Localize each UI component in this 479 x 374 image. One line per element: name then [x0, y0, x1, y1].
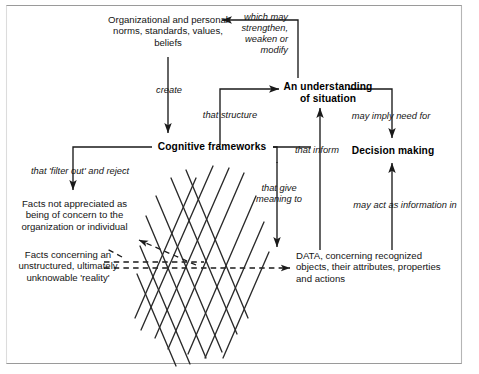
- node-cognitive-frameworks: Cognitive frameworks: [150, 141, 274, 153]
- node-data-line3: and actions: [296, 273, 476, 284]
- node-data-line2: objects, their attributes, properties: [296, 261, 476, 272]
- edge-label-that-inform: that inform: [285, 145, 349, 156]
- edge-label-that-structure: that structure: [193, 110, 267, 121]
- edge-label-that-give-line2: meaning to: [248, 194, 310, 205]
- node-decision-making: Decision making: [349, 145, 437, 157]
- lattice-line-b3: [188, 196, 256, 354]
- lattice-line-b7: [135, 178, 196, 318]
- node-facts-concerning-reality: Facts concerning an unstructured, ultima…: [8, 249, 128, 283]
- node-an-understanding-of-situation: An understanding of situation: [282, 81, 374, 105]
- edge-label-that-give-line1: that give: [248, 183, 310, 194]
- edge-label-which-may-modify: which may strengthen, weaken or modify: [218, 12, 288, 57]
- node-facts-reality-line2: unstructured, ultimately: [8, 260, 128, 271]
- edge-label-which-may-line4: modify: [218, 45, 288, 56]
- edge-label-that-filter-out: that 'filter out' and reject: [31, 166, 161, 177]
- node-data-concerning-recognized-objects: DATA, concerning recognized objects, the…: [296, 250, 476, 284]
- lattice-line-b5: [223, 252, 269, 358]
- edge-label-which-may-line2: strengthen,: [218, 23, 288, 34]
- edge-label-which-may-line3: weaken or: [218, 34, 288, 45]
- edge-label-create: create: [139, 85, 199, 96]
- edge-label-which-may-line1: which may: [218, 12, 288, 23]
- node-understanding-line1: An understanding: [282, 81, 374, 93]
- node-facts-not-line2: being of concern to the: [8, 209, 141, 220]
- edge-label-may-act-as-information-in: may act as information in: [345, 200, 465, 211]
- node-facts-not-line3: organization or individual: [8, 221, 141, 232]
- node-facts-not-appreciated: Facts not appreciated as being of concer…: [8, 198, 141, 232]
- node-understanding-line2: of situation: [282, 93, 374, 105]
- node-data-line1: DATA, concerning recognized: [296, 250, 476, 261]
- node-facts-reality-line3: unknowable 'reality': [8, 272, 128, 283]
- edge-label-that-give-meaning-to: that give meaning to: [248, 183, 310, 205]
- node-facts-reality-line1: Facts concerning an: [8, 249, 128, 260]
- lattice-line-b2: [155, 168, 229, 338]
- diagram-canvas: Organizational and personal norms, stand…: [0, 0, 479, 374]
- lattice-line-a6: [137, 274, 176, 366]
- node-facts-not-line1: Facts not appreciated as: [8, 198, 141, 209]
- lattice-line-a5: [140, 246, 190, 364]
- edge-label-may-imply-need-for: may imply need for: [341, 111, 441, 122]
